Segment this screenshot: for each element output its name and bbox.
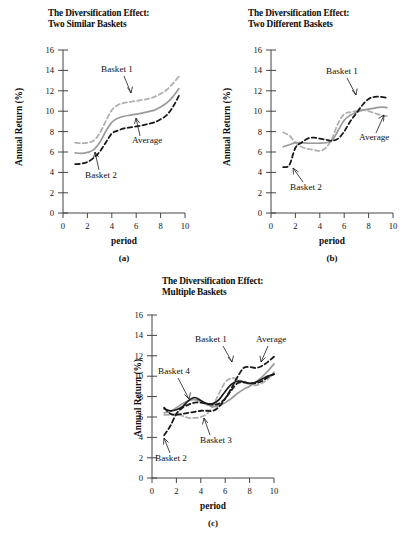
- y-tick-14: 14: [134, 330, 143, 340]
- leader-basket-2: [164, 438, 170, 453]
- panel-a-xlabel: period: [63, 236, 185, 246]
- x-tick-10: 10: [389, 221, 398, 231]
- y-tick-6: 6: [50, 147, 55, 157]
- panel-c-plot: 16 14 12 10 8 6 4 2 0 0 2 4 6 8 10: [100, 271, 350, 503]
- y-tick-2: 2: [50, 188, 54, 198]
- panel-c-x-ticks: [152, 478, 274, 483]
- y-tick-2: 2: [258, 188, 262, 198]
- label-basket-1: Basket 1: [195, 334, 227, 344]
- label-basket-2: Basket 2: [85, 170, 117, 180]
- x-tick-2: 2: [174, 486, 178, 496]
- x-tick-2: 2: [293, 221, 297, 231]
- label-average: Average: [256, 334, 286, 344]
- y-tick-4: 4: [258, 167, 263, 177]
- y-tick-16: 16: [134, 310, 143, 320]
- x-tick-6: 6: [223, 486, 228, 496]
- leader-basket-1: [124, 76, 131, 93]
- x-tick-10: 10: [181, 221, 190, 231]
- y-tick-6: 6: [139, 412, 144, 422]
- panel-a-series: [75, 76, 179, 164]
- x-tick-6: 6: [134, 221, 139, 231]
- x-tick-10: 10: [270, 486, 279, 496]
- y-tick-0: 0: [139, 473, 143, 483]
- panel-b-x-ticks: [271, 213, 393, 218]
- panel-c-x-ticklabels: 0 2 4 6 8 10: [150, 486, 278, 496]
- y-tick-12: 12: [253, 86, 262, 96]
- leader-basket-2: [293, 168, 303, 182]
- panel-c-xlabel: period: [152, 501, 274, 511]
- y-tick-12: 12: [134, 351, 143, 361]
- panel-c-caption: (c): [152, 518, 274, 528]
- panel-c-y-ticklabels: 16 14 12 10 8 6 4 2 0: [134, 310, 143, 483]
- panel-a-x-ticklabels: 0 2 4 6 8 10: [61, 221, 189, 231]
- panel-a: The Diversification Effect: Two Similar …: [0, 0, 204, 271]
- series-basket-3: [164, 372, 274, 418]
- y-tick-8: 8: [258, 127, 262, 137]
- y-tick-12: 12: [45, 86, 54, 96]
- leader-basket-3: [204, 418, 210, 435]
- label-average: Average: [359, 132, 389, 142]
- y-tick-6: 6: [258, 147, 263, 157]
- y-tick-10: 10: [45, 106, 54, 116]
- x-tick-0: 0: [61, 221, 65, 231]
- label-basket-2: Basket 2: [290, 182, 322, 192]
- panel-a-caption: (a): [63, 253, 185, 263]
- x-tick-6: 6: [342, 221, 347, 231]
- y-tick-2: 2: [139, 453, 143, 463]
- x-tick-8: 8: [366, 221, 370, 231]
- y-tick-10: 10: [134, 371, 143, 381]
- panel-b-caption: (b): [271, 253, 393, 263]
- x-tick-0: 0: [150, 486, 154, 496]
- x-tick-0: 0: [269, 221, 273, 231]
- y-tick-10: 10: [253, 106, 262, 116]
- label-basket-1: Basket 1: [101, 64, 133, 74]
- panel-a-annotations: Basket 1 Basket 2 Average: [85, 64, 162, 180]
- x-tick-8: 8: [247, 486, 251, 496]
- panel-b-xlabel: period: [271, 236, 393, 246]
- series-average: [75, 89, 179, 154]
- panel-a-y-ticklabels: 16 14 12 10 8 6 4 2 0: [45, 45, 54, 218]
- label-basket-2: Basket 2: [155, 453, 187, 463]
- x-tick-4: 4: [110, 221, 115, 231]
- label-basket-4: Basket 4: [158, 366, 190, 376]
- label-basket-3: Basket 3: [200, 435, 232, 445]
- label-average: Average: [132, 135, 162, 145]
- panel-b-x-ticklabels: 0 2 4 6 8 10: [269, 221, 397, 231]
- leader-basket-4: [178, 378, 189, 399]
- panel-a-plot: 16 14 12 10 8 6 4 2 0 0 2 4 6 8 10: [0, 0, 204, 232]
- y-tick-4: 4: [139, 432, 144, 442]
- panel-b-y-ticklabels: 16 14 12 10 8 6 4 2 0: [253, 45, 262, 218]
- panel-b: The Diversification Effect: Two Differen…: [204, 0, 408, 271]
- y-tick-0: 0: [258, 208, 262, 218]
- leader-average: [261, 346, 268, 362]
- y-tick-8: 8: [50, 127, 54, 137]
- y-tick-16: 16: [45, 45, 54, 55]
- panel-b-plot: 16 14 12 10 8 6 4 2 0 0 2 4 6 8 10: [204, 0, 408, 232]
- x-tick-4: 4: [199, 486, 204, 496]
- y-tick-8: 8: [139, 392, 143, 402]
- leader-basket-1: [223, 346, 232, 362]
- y-tick-4: 4: [50, 167, 55, 177]
- y-tick-14: 14: [45, 65, 54, 75]
- panel-c: The Diversification Effect: Multiple Bas…: [100, 271, 350, 542]
- panel-a-x-ticks: [63, 213, 185, 218]
- series-basket-1: [75, 76, 179, 143]
- x-tick-8: 8: [158, 221, 162, 231]
- x-tick-2: 2: [85, 221, 89, 231]
- label-basket-1: Basket 1: [326, 66, 358, 76]
- x-tick-4: 4: [318, 221, 323, 231]
- y-tick-14: 14: [253, 65, 262, 75]
- leader-basket-1: [347, 78, 356, 95]
- y-tick-0: 0: [50, 208, 54, 218]
- y-tick-16: 16: [253, 45, 262, 55]
